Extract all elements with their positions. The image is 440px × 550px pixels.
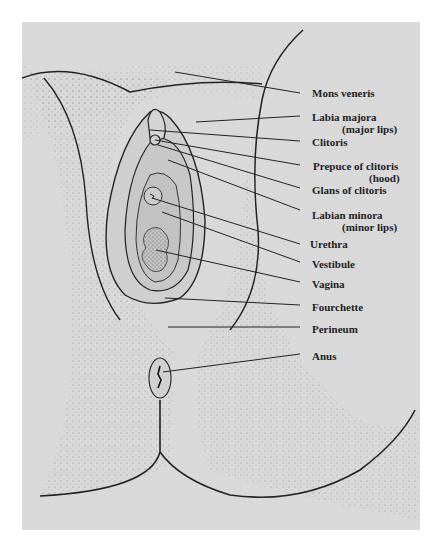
label-clitoris: Clitoris — [312, 136, 347, 148]
label-labia-minora: Labian minora(minor lips) — [312, 209, 397, 233]
label-glans: Glans of clitoris — [312, 184, 387, 196]
vagina-shape — [142, 227, 169, 271]
right-thigh-shading — [197, 90, 420, 520]
label-anus: Anus — [312, 350, 336, 362]
label-perineum: Perineum — [312, 323, 358, 335]
label-vagina: Vagina — [312, 278, 345, 290]
label-vestibule: Vestibule — [312, 258, 355, 270]
label-mons-veneris: Mons veneris — [312, 87, 375, 99]
label-labia-majora: Labia majora(major lips) — [312, 111, 397, 135]
label-fourchette: Fourchette — [312, 301, 363, 313]
label-urethra: Urethra — [310, 238, 348, 250]
diagram-panel: Mons veneris Labia majora(major lips) Cl… — [22, 22, 420, 530]
label-prepuce: Prepuce of clitoris(hood) — [313, 160, 400, 184]
